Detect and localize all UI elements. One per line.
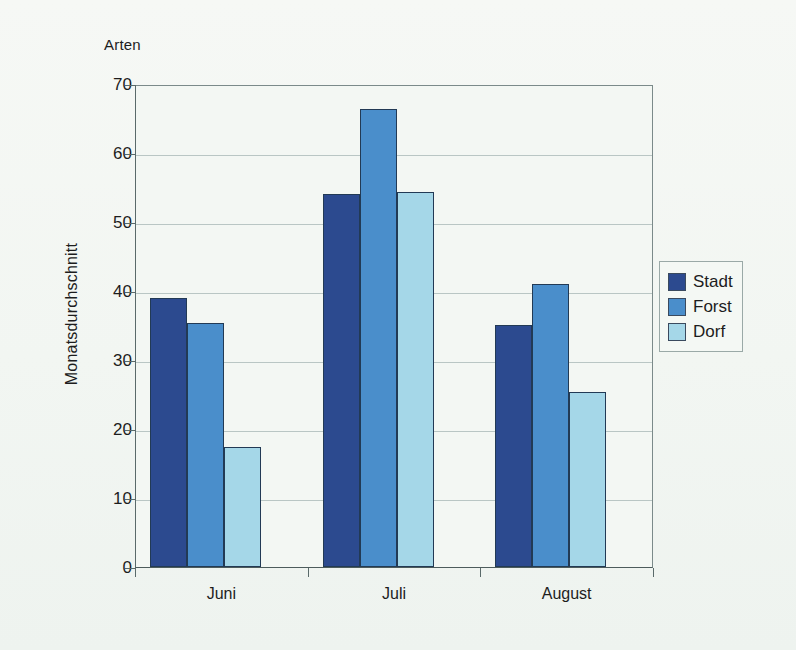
- bar-forst-juni[interactable]: [187, 323, 224, 567]
- bar-stadt-juni[interactable]: [150, 298, 187, 567]
- y-axis-tick-mark: [125, 85, 136, 86]
- y-axis-tick-mark: [125, 361, 136, 362]
- y-axis-tick-mark: [125, 223, 136, 224]
- legend-label-forst: Forst: [693, 297, 732, 317]
- legend: Stadt Forst Dorf: [659, 261, 743, 352]
- bar-chart: Arten Monatsdurchschnitt 010203040506070…: [0, 0, 796, 650]
- legend-label-dorf: Dorf: [693, 322, 725, 342]
- x-axis-label-august: August: [542, 585, 592, 603]
- y-axis-tick-mark: [125, 292, 136, 293]
- bar-forst-juli[interactable]: [360, 109, 397, 567]
- y-axis-tick-mark: [125, 154, 136, 155]
- legend-item-forst[interactable]: Forst: [668, 294, 733, 319]
- bar-dorf-juni[interactable]: [224, 447, 261, 567]
- y-axis-title: Monatsdurchschnitt: [63, 204, 81, 424]
- x-axis-label-juli: Juli: [382, 585, 406, 603]
- bar-dorf-juli[interactable]: [397, 192, 434, 567]
- bar-forst-august[interactable]: [532, 284, 569, 567]
- y-axis-tick-mark: [125, 430, 136, 431]
- legend-label-stadt: Stadt: [693, 272, 733, 292]
- legend-swatch-icon-stadt: [668, 273, 686, 291]
- legend-item-stadt[interactable]: Stadt: [668, 269, 733, 294]
- unit-label: Arten: [104, 36, 141, 53]
- x-axis-tick-mark: [653, 568, 654, 577]
- x-axis-tick-mark: [480, 568, 481, 577]
- x-axis-label-juni: Juni: [207, 585, 236, 603]
- legend-item-dorf[interactable]: Dorf: [668, 319, 733, 344]
- bar-stadt-juli[interactable]: [323, 194, 360, 567]
- x-axis-tick-mark: [135, 568, 136, 577]
- x-axis-tick-mark: [308, 568, 309, 577]
- y-axis-tick-mark: [125, 499, 136, 500]
- legend-swatch-icon-forst: [668, 298, 686, 316]
- legend-swatch-icon-dorf: [668, 323, 686, 341]
- bar-stadt-august[interactable]: [495, 325, 532, 567]
- bar-dorf-august[interactable]: [569, 392, 606, 567]
- plot-area: [135, 85, 653, 568]
